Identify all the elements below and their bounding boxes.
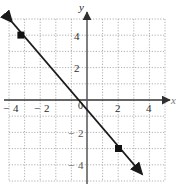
y-axis-label: y	[79, 2, 84, 13]
data-point-marker	[115, 145, 122, 152]
y-tick-label-2: 2	[74, 63, 80, 74]
x-tick-label-neg4: − 4	[3, 103, 19, 114]
x-tick-label-2: 2	[115, 103, 121, 114]
y-tick-label-neg4: − 4	[68, 160, 84, 171]
graph-screenshot: y x − 4 − 2 2 4 4 2 − 2 − 4 0	[0, 0, 176, 188]
y-tick-label-neg2: − 2	[68, 128, 84, 139]
coordinate-plane	[0, 0, 176, 188]
y-tick-label-4: 4	[74, 31, 80, 42]
x-axis-label: x	[171, 95, 176, 106]
data-point-marker	[17, 32, 24, 39]
x-tick-label-neg2: − 2	[34, 103, 50, 114]
origin-label: 0	[78, 101, 83, 111]
x-tick-label-4: 4	[146, 103, 152, 114]
